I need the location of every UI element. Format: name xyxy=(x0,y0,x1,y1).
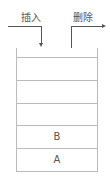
arrow-down-icon xyxy=(39,43,43,47)
push-label: 插入 xyxy=(21,12,41,24)
stack-slot-a: A xyxy=(16,154,98,166)
arrow-right-icon xyxy=(102,24,106,28)
pop-label: 删除 xyxy=(73,12,93,24)
stack-slot-b: B xyxy=(16,131,98,143)
